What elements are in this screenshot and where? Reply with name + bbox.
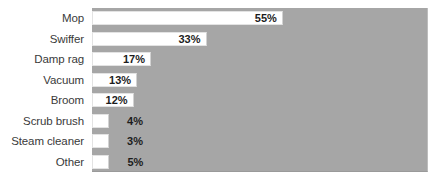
- bar-track: 33%: [92, 29, 428, 50]
- category-label: Other: [0, 152, 84, 173]
- bar-value-label: 3%: [117, 134, 143, 148]
- bar-row: Other5%: [0, 152, 442, 173]
- bar-track: 13%: [92, 70, 428, 91]
- bar-value-label: 33%: [175, 32, 201, 46]
- category-label: Broom: [0, 90, 84, 111]
- bar-track: 3%: [92, 131, 428, 152]
- bar-row: Vacuum13%: [0, 70, 442, 91]
- bar-chart: Mop55%Swiffer33%Damp rag17%Vacuum13%Broo…: [0, 0, 442, 179]
- bar-value-label: 13%: [105, 73, 131, 87]
- category-label: Damp rag: [0, 49, 84, 70]
- bar: [92, 114, 109, 128]
- bar-value-label: 12%: [102, 93, 128, 107]
- bar-value-label: 17%: [119, 52, 145, 66]
- category-label: Vacuum: [0, 70, 84, 91]
- bar-track: 55%: [92, 8, 428, 29]
- bar-row: Steam cleaner3%: [0, 131, 442, 152]
- bar-track: 17%: [92, 49, 428, 70]
- bar-value-label: 4%: [117, 114, 143, 128]
- category-label: Swiffer: [0, 29, 84, 50]
- category-label: Mop: [0, 8, 84, 29]
- bar-value-label: 55%: [251, 11, 277, 25]
- bar: [92, 134, 109, 148]
- bar-row: Swiffer33%: [0, 29, 442, 50]
- bar: [92, 155, 109, 169]
- bar-row: Damp rag17%: [0, 49, 442, 70]
- bar-track: 4%: [92, 111, 428, 132]
- bar-rows: Mop55%Swiffer33%Damp rag17%Vacuum13%Broo…: [0, 8, 442, 172]
- category-label: Scrub brush: [0, 111, 84, 132]
- bar-value-label: 5%: [117, 155, 143, 169]
- bar-row: Broom12%: [0, 90, 442, 111]
- bar-row: Mop55%: [0, 8, 442, 29]
- bar-track: 5%: [92, 152, 428, 173]
- bar-track: 12%: [92, 90, 428, 111]
- category-label: Steam cleaner: [0, 131, 84, 152]
- bar-row: Scrub brush4%: [0, 111, 442, 132]
